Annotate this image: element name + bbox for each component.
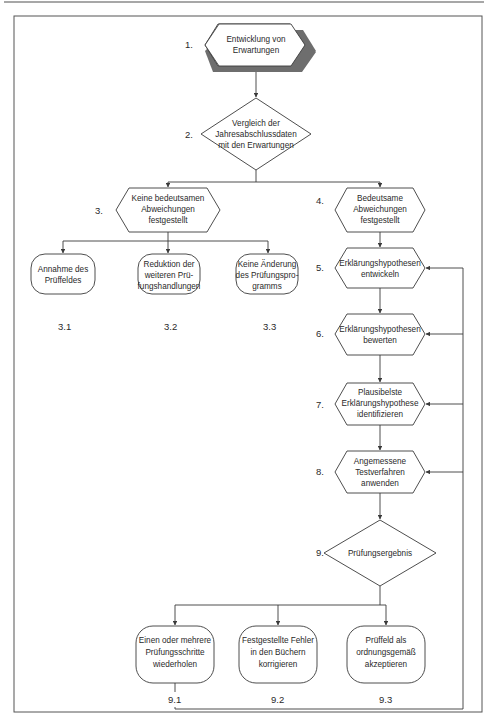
step-7-number: 7. xyxy=(316,399,324,410)
step-5-label: Erklärungshypothesen xyxy=(339,259,421,268)
svg-text:fungshandlungen: fungshandlungen xyxy=(138,282,201,291)
step-1-label: Entwicklung von xyxy=(226,35,286,44)
step-8-node: Angemessene Testverfahren anwenden xyxy=(335,451,425,493)
svg-text:Festgestellte Fehler: Festgestellte Fehler xyxy=(242,636,314,645)
step-5-number: 5. xyxy=(316,262,324,273)
outcome-3-1-label: Annahme des xyxy=(38,265,89,274)
svg-text:Keine Änderung: Keine Änderung xyxy=(238,259,297,269)
svg-text:ordnungsgemäß: ordnungsgemäß xyxy=(356,648,416,657)
step-9-node: Prüfungsergebnis xyxy=(324,520,436,586)
step-3-number: 3. xyxy=(95,205,103,216)
step-3-label-line2: Abweichungen xyxy=(141,205,195,214)
outcome-3-2-label-line2: weiteren Prü- xyxy=(144,271,194,280)
step-4-number: 4. xyxy=(316,195,324,206)
svg-text:Testverfahren: Testverfahren xyxy=(355,468,405,477)
step-4-node: Bedeutsame Abweichungen festgestellt xyxy=(335,188,425,232)
step-1-node: Entwicklung von Erwartungen xyxy=(205,24,316,72)
step-7-label-line3: identifizieren xyxy=(357,410,403,419)
step-4-label-line3: festgestellt xyxy=(360,216,400,225)
svg-text:korrigieren: korrigieren xyxy=(259,660,298,669)
svg-text:akzeptieren: akzeptieren xyxy=(365,660,408,669)
svg-text:Einen oder mehrere: Einen oder mehrere xyxy=(139,636,212,645)
outcome-3-3-number: 3.3 xyxy=(263,321,276,332)
step-6-number: 6. xyxy=(316,328,324,339)
step-7-node: Plausibelste Erklärungshypothese identif… xyxy=(335,383,425,425)
step-6-label: Erklärungshypothesen xyxy=(339,325,421,334)
step-8-label: Angemessene xyxy=(354,457,407,466)
outcome-3-1-label-line2: Prüffeldes xyxy=(45,276,82,285)
step-7-label-line2: Erklärungshypothese xyxy=(342,399,419,408)
outcome-9-1-label: Einen oder mehrere xyxy=(139,636,212,645)
step-2-number: 2. xyxy=(185,129,193,140)
outcome-9-2-label: Festgestellte Fehler xyxy=(242,636,314,645)
svg-text:Plausibelste: Plausibelste xyxy=(358,388,403,397)
outcome-9-3-number: 9.3 xyxy=(379,694,392,705)
step-8-number: 8. xyxy=(316,466,324,477)
step-2-label-line3: mit den Erwartungen xyxy=(218,141,294,150)
outcome-9-1-label-line3: wiederholen xyxy=(152,660,198,669)
outcome-9-3: Prüffeld als ordnungsgemäß akzeptieren xyxy=(347,626,425,683)
outcome-3-2-number: 3.2 xyxy=(164,321,177,332)
outcome-3-2-label: Reduktion der xyxy=(144,260,195,269)
outcome-9-3-label: Prüffeld als xyxy=(366,636,407,645)
svg-text:Bedeutsame: Bedeutsame xyxy=(357,194,403,203)
outcome-3-3: Keine Änderung des Prüfungspro- gramms xyxy=(236,254,299,294)
outcome-3-1-number: 3.1 xyxy=(58,321,71,332)
step-6-label-line2: bewerten xyxy=(363,336,397,345)
step-6-node: Erklärungshypothesen bewerten xyxy=(335,314,425,355)
step-5-node: Erklärungshypothesen entwickeln xyxy=(335,248,425,288)
svg-text:Angemessene: Angemessene xyxy=(354,457,407,466)
outcome-3-3-label-line3: gramms xyxy=(252,282,282,291)
step-2-node: Vergleich der Jahresabschlussdaten mit d… xyxy=(201,98,311,170)
outcome-3-1: Annahme des Prüffeldes xyxy=(31,254,95,294)
svg-text:Prüffeld als: Prüffeld als xyxy=(366,636,407,645)
outcome-9-2-label-line3: korrigieren xyxy=(259,660,298,669)
outcome-3-2-label-line3: fungshandlungen xyxy=(138,282,201,291)
svg-text:festgestellt: festgestellt xyxy=(148,216,188,225)
outcome-9-3-label-line2: ordnungsgemäß xyxy=(356,648,416,657)
svg-text:mit den Erwartungen: mit den Erwartungen xyxy=(218,141,294,150)
outcome-9-1: Einen oder mehrere Prüfungsschritte wied… xyxy=(136,626,214,683)
svg-text:Erwartungen: Erwartungen xyxy=(233,46,280,55)
step-9-number: 9. xyxy=(316,547,324,558)
step-1-number: 1. xyxy=(185,39,193,50)
step-1-label-line2: Erwartungen xyxy=(233,46,280,55)
svg-text:wiederholen: wiederholen xyxy=(152,660,198,669)
outcome-9-2-number: 9.2 xyxy=(271,694,284,705)
svg-text:identifizieren: identifizieren xyxy=(357,410,403,419)
step-2-label: Vergleich der xyxy=(232,119,280,128)
svg-text:Entwicklung von: Entwicklung von xyxy=(226,35,286,44)
step-3-label: Keine bedeutsamen xyxy=(132,194,205,203)
svg-text:Erklärungshypothese: Erklärungshypothese xyxy=(342,399,419,408)
svg-text:Keine bedeutsamen: Keine bedeutsamen xyxy=(132,194,205,203)
svg-text:Erklärungshypothesen: Erklärungshypothesen xyxy=(339,259,421,268)
svg-text:Annahme des: Annahme des xyxy=(38,265,89,274)
svg-text:Abweichungen: Abweichungen xyxy=(141,205,195,214)
svg-text:anwenden: anwenden xyxy=(361,479,399,488)
svg-text:gramms: gramms xyxy=(252,282,282,291)
step-9-label: Prüfungsergebnis xyxy=(348,549,412,558)
step-5-label-line2: entwickeln xyxy=(361,270,400,279)
svg-text:bewerten: bewerten xyxy=(363,336,397,345)
svg-text:Prüfungsergebnis: Prüfungsergebnis xyxy=(348,549,412,558)
svg-text:weiteren Prü-: weiteren Prü- xyxy=(144,271,194,280)
outcome-9-1-number: 9.1 xyxy=(168,694,181,705)
svg-text:Abweichungen: Abweichungen xyxy=(353,205,407,214)
svg-text:in den Büchern: in den Büchern xyxy=(250,648,306,657)
svg-text:Prüffeldes: Prüffeldes xyxy=(45,276,82,285)
step-8-label-line2: Testverfahren xyxy=(355,468,405,477)
step-3-label-line3: festgestellt xyxy=(148,216,188,225)
outcome-9-2: Festgestellte Fehler in den Büchern korr… xyxy=(239,626,317,683)
svg-text:Vergleich der: Vergleich der xyxy=(232,119,280,128)
step-7-label: Plausibelste xyxy=(358,388,403,397)
outcome-3-2: Reduktion der weiteren Prü- fungshandlun… xyxy=(138,254,201,294)
outcome-9-2-label-line2: in den Büchern xyxy=(250,648,306,657)
step-2-label-line2: Jahresabschlussdaten xyxy=(215,130,297,139)
outcome-3-3-label-line2: des Prüfungspro- xyxy=(236,271,299,280)
step-4-label-line2: Abweichungen xyxy=(353,205,407,214)
svg-text:Prüfungsschritte: Prüfungsschritte xyxy=(145,648,205,657)
svg-text:des Prüfungspro-: des Prüfungspro- xyxy=(236,271,299,280)
outcome-9-3-label-line3: akzeptieren xyxy=(365,660,408,669)
step-4-label: Bedeutsame xyxy=(357,194,403,203)
step-8-label-line3: anwenden xyxy=(361,479,399,488)
